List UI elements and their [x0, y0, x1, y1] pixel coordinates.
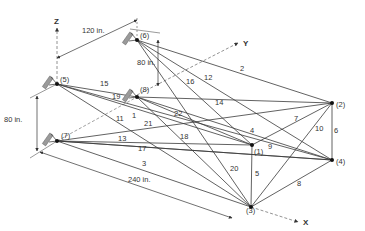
member-label-12: 12	[204, 73, 212, 82]
axis-x	[251, 207, 298, 222]
member-20	[137, 40, 251, 207]
member-label-6: 6	[334, 126, 338, 135]
member-label-22: 22	[174, 109, 182, 118]
dim-240-line	[40, 152, 232, 218]
member-label-4: 4	[250, 126, 254, 135]
member-3	[57, 141, 251, 207]
node-7	[55, 139, 59, 143]
space-truss-diagram: XYZ 120 in.80 in.80 in.240 in. 123456789…	[0, 0, 365, 231]
node-label-6: (6)	[140, 31, 150, 40]
member-label-20: 20	[230, 164, 238, 173]
member-label-10: 10	[315, 124, 323, 133]
member-14	[137, 97, 332, 103]
member-label-21: 21	[144, 119, 152, 128]
axis-label-z: Z	[54, 17, 59, 26]
member-label-3: 3	[142, 159, 146, 168]
member-label-14: 14	[215, 98, 223, 107]
member-22	[57, 84, 332, 160]
member-8	[251, 160, 332, 207]
node-label-1: (1)	[254, 147, 264, 156]
member-label-18: 18	[180, 132, 188, 141]
member-1	[137, 97, 252, 145]
axis-y	[137, 43, 238, 95]
node-label-8: (8)	[140, 85, 150, 94]
node-5	[55, 82, 59, 86]
node-4	[330, 158, 334, 162]
truss-members: 12345678910111213141516171819202122	[57, 40, 338, 207]
dim-80-left-label: 80 in.	[4, 115, 22, 124]
member-label-1: 1	[132, 111, 136, 120]
node-label-5: (5)	[60, 75, 70, 84]
member-label-8: 8	[297, 179, 301, 188]
member-label-16: 16	[186, 77, 194, 86]
node-label-7: (7)	[61, 131, 71, 140]
node-8	[135, 95, 139, 99]
axis-label-y: Y	[243, 39, 249, 48]
axis-label-x: X	[303, 218, 309, 227]
member-16	[137, 40, 252, 145]
member-label-17: 17	[138, 144, 146, 153]
member-label-11: 11	[116, 114, 124, 123]
member-label-15: 15	[100, 79, 108, 88]
dim-120-label: 120 in.	[82, 26, 105, 35]
member-label-7: 7	[294, 114, 298, 123]
node-label-4: (4)	[336, 157, 346, 166]
member-2	[137, 40, 332, 103]
node-2	[330, 101, 334, 105]
member-label-5: 5	[255, 169, 259, 178]
member-18	[137, 97, 251, 207]
node-label-2: (2)	[336, 100, 346, 109]
node-6	[135, 38, 139, 42]
node-label-3: (3)	[246, 206, 256, 215]
member-label-2: 2	[240, 64, 244, 73]
dim-240-label: 240 in.	[128, 175, 151, 184]
member-label-13: 13	[118, 134, 126, 143]
